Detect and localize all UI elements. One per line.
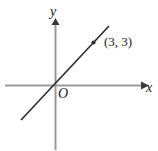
origin-label: O — [58, 87, 68, 101]
coordinate-axes-graphic — [0, 0, 158, 151]
y-axis-arrowhead — [52, 18, 60, 25]
coordinate-plane-figure: y x O (3, 3) — [0, 0, 158, 151]
point-coordinate-label: (3, 3) — [104, 35, 132, 48]
plotted-line — [21, 26, 109, 120]
data-point-marker — [91, 40, 95, 44]
x-axis-label: x — [146, 81, 152, 95]
y-axis-label: y — [50, 5, 56, 19]
